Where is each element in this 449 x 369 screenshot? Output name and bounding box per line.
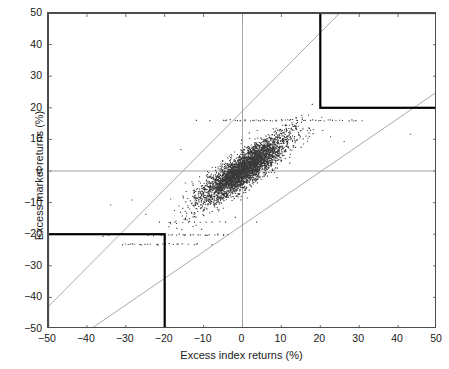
y-tick-label: −20 xyxy=(24,228,42,239)
plot-area xyxy=(47,12,436,328)
x-tick-label: 40 xyxy=(391,333,403,344)
x-tick-label: 50 xyxy=(430,333,442,344)
y-tick-label: −50 xyxy=(24,323,42,334)
x-tick-label: 0 xyxy=(239,333,245,344)
plot-canvas xyxy=(48,13,436,328)
upper-right-highlight-box xyxy=(320,13,436,108)
y-tick-label: 50 xyxy=(30,7,42,18)
x-tick-label: −10 xyxy=(194,333,212,344)
lower-envelope-line xyxy=(91,92,436,328)
y-tick-label: −30 xyxy=(24,260,42,271)
x-tick-label: 30 xyxy=(352,333,364,344)
y-tick-label: 40 xyxy=(30,38,42,49)
outlier-points xyxy=(103,120,411,246)
scatter-plot-figure: Excess market returns (%) −50−40−30−20−1… xyxy=(0,0,449,369)
y-tick-label: 20 xyxy=(30,102,42,113)
x-tick-label: −30 xyxy=(116,333,134,344)
x-axis-title: Excess index returns (%) xyxy=(47,350,436,361)
outlier-dots xyxy=(103,120,411,246)
cloud-points xyxy=(168,104,322,230)
y-tick-label: −10 xyxy=(24,196,42,207)
x-tick-label: −20 xyxy=(155,333,173,344)
upper-envelope-line xyxy=(48,13,340,307)
x-tick-label: −40 xyxy=(77,333,95,344)
x-tick-label: −50 xyxy=(38,333,56,344)
x-tick-label: 10 xyxy=(275,333,287,344)
y-tick-label: 10 xyxy=(30,133,42,144)
y-tick-label: −40 xyxy=(24,291,42,302)
y-tick-label: 0 xyxy=(36,165,42,176)
scatter-point-cloud xyxy=(168,104,322,230)
x-tick-label: 20 xyxy=(313,333,325,344)
y-tick-label: 30 xyxy=(30,70,42,81)
